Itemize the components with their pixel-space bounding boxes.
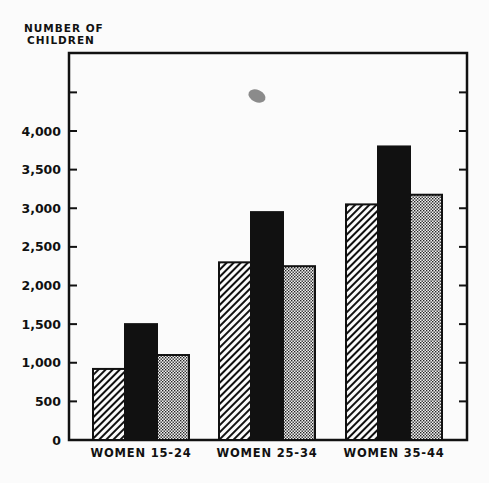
bar-solid [378,146,410,440]
bar-group [346,146,442,440]
y-tick-label: 1,000 [21,355,61,370]
bar-dots [283,266,315,440]
bar-dots [410,195,442,440]
bar-hatch [346,204,378,440]
category-label: WOMEN 25-34 [217,446,318,460]
y-tick-label: 0 [52,433,61,448]
category-label: WOMEN 35-44 [344,446,445,460]
x-axis-labels: WOMEN 15-24WOMEN 25-34WOMEN 35-44 [91,446,445,460]
y-tick-label: 500 [35,394,61,409]
bar-solid [251,212,283,440]
bars [93,146,442,440]
y-tick-label: 3,000 [21,201,61,216]
y-tick-label: 3,500 [21,162,61,177]
bar-group [93,324,189,440]
bar-solid [125,324,157,440]
y-tick-label: 2,500 [21,239,61,254]
bar-dots [157,355,189,440]
category-label: WOMEN 15-24 [91,446,192,460]
y-tick-label: 1,500 [21,317,61,332]
bar-chart: 05001,0001,5002,0002,5003,0003,5004,000 … [0,0,489,483]
bar-hatch [93,369,125,440]
smudge-mark [246,87,267,105]
y-tick-label: 2,000 [21,278,61,293]
bar-group [219,212,315,440]
bar-hatch [219,262,251,440]
y-tick-label: 4,000 [21,124,61,139]
